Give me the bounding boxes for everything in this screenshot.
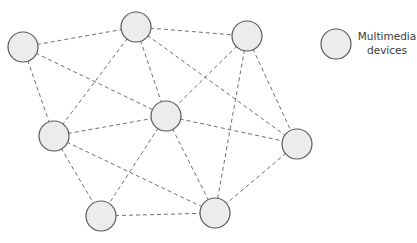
edge-n2-n3 xyxy=(136,27,247,36)
edge-n1-n2 xyxy=(23,27,136,47)
device-node-n3 xyxy=(232,21,262,51)
device-node-n4 xyxy=(39,121,69,151)
edge-n6-n8 xyxy=(215,144,297,213)
edge-n4-n8 xyxy=(54,136,215,213)
legend-device-icon xyxy=(321,29,351,59)
device-node-n6 xyxy=(282,129,312,159)
edge-n3-n5 xyxy=(166,36,247,116)
device-node-n8 xyxy=(200,198,230,228)
legend-label: Multimedia devices xyxy=(357,29,417,57)
edge-n5-n8 xyxy=(166,116,215,213)
device-node-n1 xyxy=(8,32,38,62)
legend-label-line1: Multimedia xyxy=(357,29,417,43)
device-node-n5 xyxy=(151,101,181,131)
device-node-n2 xyxy=(121,12,151,42)
edge-n3-n6 xyxy=(247,36,297,144)
edge-n5-n7 xyxy=(101,116,166,216)
edge-n1-n5 xyxy=(23,47,166,116)
edge-n4-n5 xyxy=(54,116,166,136)
device-node-n7 xyxy=(86,201,116,231)
legend-label-line2: devices xyxy=(357,43,417,57)
edge-n7-n8 xyxy=(101,213,215,216)
